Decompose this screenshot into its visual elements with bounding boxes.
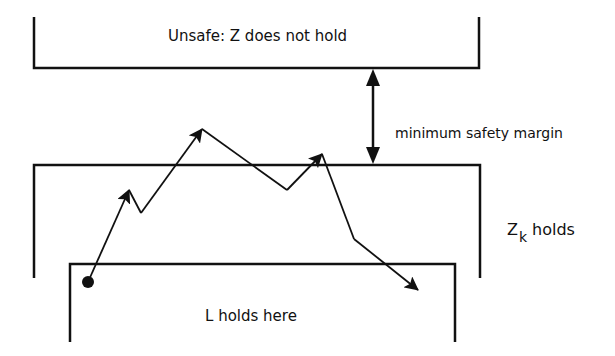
- zk-region-boundary: [34, 165, 480, 278]
- zk-region-label: Zkholds: [507, 221, 575, 239]
- trajectory-segment: [88, 190, 129, 282]
- l-region-boundary: [70, 264, 455, 342]
- trajectory-segment: [287, 154, 322, 190]
- trajectory-segment: [322, 154, 354, 239]
- trajectory-segment: [141, 129, 202, 213]
- trajectory-start-dot: [82, 276, 94, 288]
- margin-arrowhead-down-icon: [366, 147, 380, 164]
- zk-label-rest: holds: [532, 220, 575, 239]
- zk-label-subscript: k: [519, 229, 527, 245]
- trajectory-segment: [202, 129, 287, 190]
- zk-label-main: Z: [507, 220, 518, 239]
- trajectory-segment: [129, 190, 141, 213]
- safety-margin-label: minimum safety margin: [395, 124, 563, 142]
- unsafe-region-label: Unsafe: Z does not hold: [168, 27, 347, 45]
- trajectory: [88, 129, 418, 290]
- l-region-label: L holds here: [205, 307, 297, 325]
- margin-arrowhead-up-icon: [366, 69, 380, 86]
- safety-margin-diagram: [0, 0, 615, 356]
